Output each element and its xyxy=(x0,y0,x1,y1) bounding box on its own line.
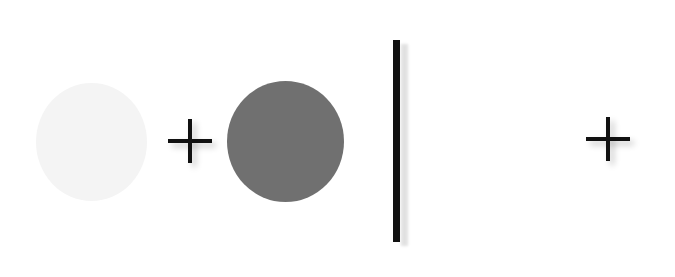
plus-vertical-stroke xyxy=(188,119,192,163)
vertical-divider xyxy=(393,40,400,242)
plus-vertical-stroke xyxy=(606,117,610,161)
plus-icon-right xyxy=(586,117,630,161)
dark-circle xyxy=(227,81,344,202)
plus-icon xyxy=(168,119,212,163)
light-circle xyxy=(36,83,147,201)
